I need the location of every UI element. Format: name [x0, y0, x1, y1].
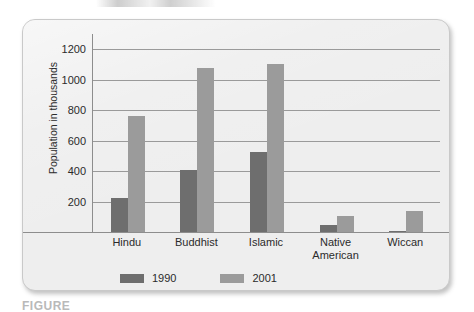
y-axis-title: Population in thousands — [47, 33, 59, 203]
x-category-label-line: Islamic — [231, 236, 301, 249]
bars-layer — [93, 34, 440, 232]
legend-item-1990[interactable]: 1990 — [120, 272, 176, 284]
bar-buddhist-2001[interactable] — [197, 68, 214, 232]
bar-wiccan-2001[interactable] — [406, 211, 423, 232]
x-category-label-line: Native — [301, 236, 371, 249]
bar-group — [302, 34, 372, 232]
legend-swatch-icon — [120, 274, 144, 283]
x-category-label: Hindu — [92, 236, 162, 249]
legend-swatch-icon — [220, 274, 244, 283]
chart-card: Population in thousands 1200100080060040… — [22, 19, 450, 291]
y-tick-label: 1200 — [62, 43, 86, 55]
bar-buddhist-1990[interactable] — [180, 170, 197, 232]
figure-caption: FIGURE — [22, 300, 142, 312]
y-tick-label: 1000 — [62, 74, 86, 86]
y-tick-label: 800 — [68, 104, 86, 116]
bar-native-american-1990[interactable] — [320, 225, 337, 232]
x-category-label-line: American — [301, 249, 371, 262]
x-category-label: Islamic — [231, 236, 301, 249]
y-tick-label: 200 — [68, 196, 86, 208]
x-category-label-line: Buddhist — [162, 236, 232, 249]
x-axis-baseline — [23, 232, 450, 233]
x-category-label-line: Wiccan — [370, 236, 440, 249]
plot-wrapper: 12001000800600400200 — [92, 34, 440, 232]
plot-area: 12001000800600400200 — [92, 34, 440, 232]
bar-group — [163, 34, 233, 232]
bar-group — [232, 34, 302, 232]
chart-legend: 19902001 — [120, 272, 277, 284]
bar-wiccan-1990[interactable] — [389, 231, 406, 232]
bar-hindu-1990[interactable] — [111, 198, 128, 232]
bar-group — [371, 34, 441, 232]
legend-label: 2001 — [252, 272, 276, 284]
bar-islamic-2001[interactable] — [267, 64, 284, 232]
x-category-label: Wiccan — [370, 236, 440, 249]
y-tick-label: 400 — [68, 165, 86, 177]
page-scan-artifact-top — [96, 0, 216, 7]
legend-label: 1990 — [152, 272, 176, 284]
bar-hindu-2001[interactable] — [128, 116, 145, 233]
x-category-label-line: Hindu — [92, 236, 162, 249]
bar-islamic-1990[interactable] — [250, 152, 267, 232]
bar-native-american-2001[interactable] — [337, 216, 354, 232]
bar-group — [93, 34, 163, 232]
x-category-label: Buddhist — [162, 236, 232, 249]
x-category-label: NativeAmerican — [301, 236, 371, 261]
legend-item-2001[interactable]: 2001 — [220, 272, 276, 284]
y-tick-label: 600 — [68, 135, 86, 147]
